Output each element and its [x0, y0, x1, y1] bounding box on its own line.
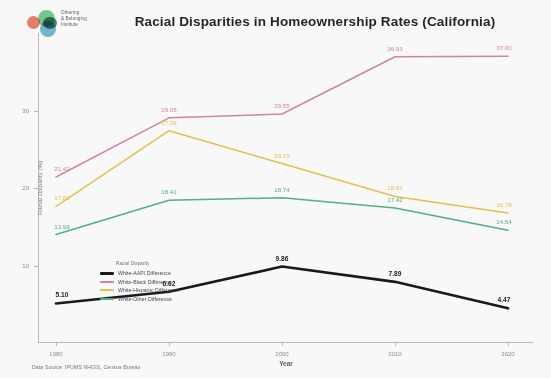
plot-area: 102030 19801990200020102020 Racial Dispa… — [38, 33, 534, 343]
data-label: 29.05 — [161, 105, 176, 112]
data-label: 23.15 — [274, 151, 289, 158]
data-label: 21.42 — [54, 164, 69, 171]
data-source-note: Data Source: IPUMS NHGIS, Census Bureau — [32, 364, 141, 370]
data-label: 18.74 — [274, 185, 289, 192]
x-axis-tick-label: 1990 — [162, 351, 175, 357]
legend-item[interactable]: White-Hispanic Difference — [100, 286, 220, 295]
data-label: 18.41 — [161, 188, 176, 195]
x-axis-tick-label: 2000 — [275, 351, 288, 357]
data-label: 4.47 — [498, 296, 511, 303]
series-line — [56, 131, 508, 213]
data-label: 7.89 — [389, 269, 402, 276]
data-label: 37.00 — [496, 44, 511, 51]
data-label: 9.86 — [276, 254, 289, 261]
legend-item-label: White-Hispanic Difference — [118, 287, 179, 293]
logo-wordmark: Othering & Belonging Institute — [61, 10, 87, 29]
legend-swatch-icon — [100, 289, 114, 291]
legend-item[interactable]: White-Black Difference — [100, 278, 220, 287]
data-label: 27.39 — [161, 118, 176, 125]
data-label: 17.63 — [54, 194, 69, 201]
data-label: 14.54 — [496, 218, 511, 225]
data-label: 13.99 — [54, 222, 69, 229]
logo-line-3: Institute — [61, 22, 87, 28]
legend-items: White-AAPI DifferenceWhite-Black Differe… — [100, 269, 220, 303]
series-line — [56, 56, 508, 177]
legend-item[interactable]: White-AAPI Difference — [100, 269, 220, 278]
x-axis-tick-label: 1980 — [49, 351, 62, 357]
legend-item[interactable]: White-Other Difference — [100, 295, 220, 304]
legend-item-label: White-Black Difference — [118, 279, 172, 285]
legend-swatch-icon — [100, 281, 114, 283]
legend-title: Racial Disparity — [116, 261, 220, 266]
y-axis-tick-label: 10 — [22, 263, 29, 269]
data-label: 29.55 — [274, 101, 289, 108]
chart-legend: Racial Disparity White-AAPI DifferenceWh… — [100, 261, 220, 303]
x-axis-tick-label: 2020 — [501, 351, 514, 357]
data-label: 16.78 — [496, 200, 511, 207]
x-axis-tick-label: 2010 — [388, 351, 401, 357]
y-axis-tick-label: 30 — [22, 108, 29, 114]
page-title: Racial Disparities in Homeownership Rate… — [105, 14, 525, 29]
legend-item-label: White-Other Difference — [118, 296, 172, 302]
x-axis-label: Year — [279, 360, 293, 367]
data-label: 18.91 — [387, 184, 402, 191]
y-axis-tick-label: 20 — [22, 185, 29, 191]
data-label: 17.42 — [387, 195, 402, 202]
legend-item-label: White-AAPI Difference — [118, 270, 171, 276]
data-label: 5.10 — [56, 291, 69, 298]
data-label: 36.93 — [387, 44, 402, 51]
legend-swatch-icon — [100, 272, 114, 275]
chart-page: Othering & Belonging Institute Racial Di… — [0, 0, 551, 378]
legend-swatch-icon — [100, 298, 114, 300]
